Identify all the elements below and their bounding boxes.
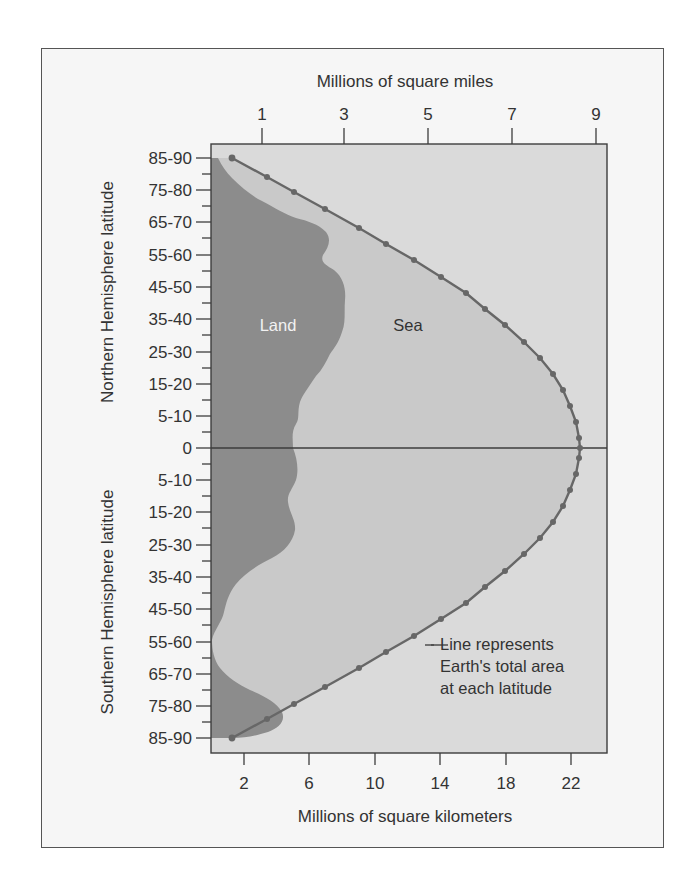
south-axis-title: Southern Hemisphere latitude: [98, 490, 117, 715]
svg-text:22: 22: [562, 774, 581, 793]
total-area-annotation: Line represents Earth's total area at ea…: [440, 635, 565, 697]
svg-text:15-20: 15-20: [149, 503, 192, 522]
svg-text:75-80: 75-80: [149, 181, 192, 200]
svg-text:45-50: 45-50: [149, 278, 192, 297]
svg-text:35-40: 35-40: [149, 310, 192, 329]
svg-text:2: 2: [239, 774, 248, 793]
svg-text:85-90: 85-90: [149, 729, 192, 748]
svg-text:45-50: 45-50: [149, 600, 192, 619]
svg-text:5-10: 5-10: [158, 407, 192, 426]
bottom-axis-tick-labels: 2 6 10 14 18 22: [239, 774, 580, 793]
top-axis-ticks: [262, 128, 596, 144]
bottom-axis-ticks: [244, 753, 571, 765]
top-axis-title: Millions of square miles: [317, 72, 494, 91]
svg-text:0: 0: [183, 439, 192, 458]
svg-text:25-30: 25-30: [149, 536, 192, 555]
svg-text:1: 1: [257, 105, 266, 124]
svg-text:14: 14: [431, 774, 450, 793]
svg-text:7: 7: [507, 105, 516, 124]
svg-text:9: 9: [591, 105, 600, 124]
left-axis-ticks: [196, 158, 211, 738]
svg-text:6: 6: [304, 774, 313, 793]
svg-text:35-40: 35-40: [149, 568, 192, 587]
north-axis-title: Northern Hemisphere latitude: [98, 181, 117, 403]
north-latitude-tick-labels: 85-90 75-80 65-70 55-60 45-50 35-40 25-3…: [149, 149, 192, 458]
south-latitude-tick-labels: 5-10 15-20 25-30 35-40 45-50 55-60 65-70…: [149, 471, 192, 748]
svg-text:at each latitude: at each latitude: [440, 679, 552, 697]
svg-text:55-60: 55-60: [149, 246, 192, 265]
svg-text:3: 3: [339, 105, 348, 124]
svg-text:85-90: 85-90: [149, 149, 192, 168]
svg-text:5: 5: [423, 105, 432, 124]
svg-text:65-70: 65-70: [149, 213, 192, 232]
svg-text:5-10: 5-10: [158, 471, 192, 490]
svg-text:Line represents: Line represents: [440, 635, 554, 653]
svg-text:75-80: 75-80: [149, 697, 192, 716]
sea-label: Sea: [393, 316, 423, 334]
latitude-area-chart: 1 3 5 7 9 Millions of square miles 2 6 1…: [0, 0, 696, 880]
svg-text:25-30: 25-30: [149, 343, 192, 362]
svg-text:65-70: 65-70: [149, 665, 192, 684]
svg-text:Earth's total area: Earth's total area: [440, 657, 565, 675]
land-label: Land: [260, 316, 297, 334]
svg-text:15-20: 15-20: [149, 375, 192, 394]
bottom-axis-title: Millions of square kilometers: [298, 807, 512, 826]
svg-text:10: 10: [366, 774, 385, 793]
top-axis-tick-labels: 1 3 5 7 9: [257, 105, 600, 124]
svg-text:18: 18: [497, 774, 516, 793]
svg-text:55-60: 55-60: [149, 633, 192, 652]
